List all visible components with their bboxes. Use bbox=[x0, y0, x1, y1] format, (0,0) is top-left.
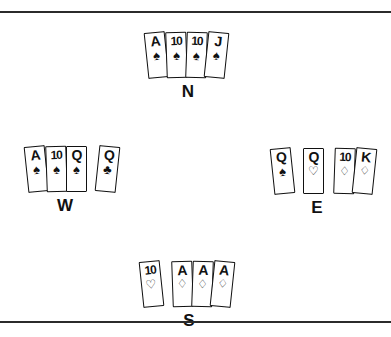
hand-label-west: W bbox=[26, 196, 104, 216]
card-rank: K bbox=[361, 151, 372, 165]
card: Q ♠ bbox=[270, 147, 296, 195]
hand-north-cards: A ♠ 10 ♠ 10 ♠ J ♠ bbox=[146, 26, 230, 78]
card-group: Q ♠ bbox=[272, 148, 292, 194]
bottom-rule bbox=[0, 321, 391, 323]
spade-icon: ♠ bbox=[279, 166, 287, 178]
card: K ♢ bbox=[352, 147, 378, 195]
spade-icon: ♠ bbox=[73, 164, 80, 175]
spade-icon: ♠ bbox=[212, 50, 220, 62]
card: Q ♠ bbox=[66, 146, 87, 192]
card-rank: 10 bbox=[339, 151, 350, 164]
hand-south-cards: 10 ♡ A ♢ A ♢ A ♢ bbox=[141, 255, 237, 307]
card-rank: Q bbox=[308, 151, 318, 164]
card-rank: Q bbox=[275, 151, 286, 165]
card-rank: Q bbox=[103, 149, 114, 163]
hand-east: Q ♠ Q ♡ 10 ♢ K ♢ bbox=[272, 142, 374, 218]
hand-east-cards: Q ♠ Q ♡ 10 ♢ K ♢ bbox=[272, 142, 374, 194]
card: Q ♣ bbox=[95, 145, 121, 193]
spade-icon: ♠ bbox=[193, 50, 200, 61]
card-rank: Q bbox=[71, 149, 81, 162]
club-icon: ♣ bbox=[103, 164, 113, 176]
card-group: 10 ♢ K ♢ bbox=[334, 148, 374, 194]
diamond-icon: ♢ bbox=[216, 278, 228, 290]
hand-south: 10 ♡ A ♢ A ♢ A ♢ S bbox=[141, 255, 237, 331]
card-rank: A bbox=[150, 35, 161, 49]
spade-icon: ♠ bbox=[173, 50, 180, 61]
hand-label-east: E bbox=[272, 198, 362, 218]
card-rank: A bbox=[219, 264, 230, 278]
heart-icon: ♡ bbox=[146, 278, 158, 290]
card-rank: 10 bbox=[50, 149, 61, 162]
card: A ♢ bbox=[210, 260, 236, 308]
card-rank: A bbox=[198, 264, 208, 277]
top-rule bbox=[0, 11, 391, 13]
card: 10 ♠ bbox=[45, 146, 68, 193]
hand-west: A ♠ 10 ♠ Q ♠ Q ♣ W bbox=[26, 140, 117, 216]
hand-north: A ♠ 10 ♠ 10 ♠ J ♠ N bbox=[146, 26, 230, 102]
card-group: A ♢ A ♢ A ♢ bbox=[172, 261, 232, 307]
card-group: Q ♣ bbox=[97, 146, 117, 192]
bridge-hand-diagram: A ♠ 10 ♠ 10 ♠ J ♠ N bbox=[0, 0, 391, 337]
card-rank: 10 bbox=[170, 35, 181, 48]
card-rank: 10 bbox=[191, 35, 202, 48]
hand-label-north: N bbox=[146, 82, 230, 102]
card-group: 10 ♡ bbox=[141, 261, 161, 307]
card-group: Q ♡ bbox=[303, 148, 323, 194]
card-rank: A bbox=[177, 264, 187, 277]
card-rank: J bbox=[214, 35, 222, 49]
card-rank: 10 bbox=[144, 264, 156, 278]
card: 10 ♡ bbox=[139, 260, 165, 308]
card-group: A ♠ 10 ♠ Q ♠ bbox=[26, 146, 86, 192]
diamond-icon: ♢ bbox=[177, 279, 188, 290]
card-group: A ♠ 10 ♠ 10 ♠ J ♠ bbox=[146, 32, 226, 78]
spade-icon: ♠ bbox=[33, 164, 41, 176]
diamond-icon: ♢ bbox=[358, 165, 370, 177]
card: J ♠ bbox=[204, 31, 230, 79]
diamond-icon: ♢ bbox=[339, 166, 350, 177]
card-rank: A bbox=[30, 149, 41, 163]
heart-icon: ♡ bbox=[308, 166, 319, 177]
spade-icon: ♠ bbox=[53, 164, 60, 175]
card: Q ♡ bbox=[303, 148, 324, 194]
diamond-icon: ♢ bbox=[197, 279, 208, 290]
spade-icon: ♠ bbox=[153, 50, 161, 62]
hand-west-cards: A ♠ 10 ♠ Q ♠ Q ♣ bbox=[26, 140, 117, 192]
